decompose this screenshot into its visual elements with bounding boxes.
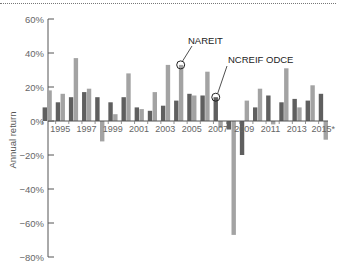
bar-ncreif-odce xyxy=(56,102,60,121)
bar-nareit xyxy=(113,114,117,121)
y-tick-label: 20% xyxy=(25,82,45,93)
bar-ncreif-odce xyxy=(306,101,310,121)
y-tick-label: 40% xyxy=(25,48,45,59)
bar-nareit xyxy=(232,121,236,235)
x-tick-label: 2007 xyxy=(208,124,228,134)
y-tick-label: −20% xyxy=(19,150,44,161)
bar-nareit xyxy=(297,107,301,121)
bar-ncreif-odce xyxy=(292,99,296,121)
bar-nareit xyxy=(87,89,91,121)
annotations: NAREIT NCREIF ODCE xyxy=(177,35,294,101)
y-tick-label: 60% xyxy=(25,14,45,25)
annotation-ncreif-odce: NCREIF ODCE xyxy=(228,54,293,65)
bar-nareit xyxy=(47,90,51,121)
x-tick-label: 1999 xyxy=(103,124,123,134)
x-tick-label: 2009 xyxy=(234,124,254,134)
x-tick-label: 2013 xyxy=(287,124,307,134)
x-tick-label: 2005 xyxy=(182,124,202,134)
x-axis: 1995199719992001200320052007200920112013… xyxy=(43,121,336,134)
bar-nareit xyxy=(166,65,170,121)
bar-nareit xyxy=(126,73,130,121)
bar-nareit xyxy=(310,85,314,121)
x-tick-label: 2001 xyxy=(129,124,149,134)
bar-ncreif-odce xyxy=(122,97,126,121)
bar-nareit xyxy=(179,65,183,121)
bar-ncreif-odce xyxy=(187,94,191,121)
bar-ncreif-odce xyxy=(69,97,73,121)
bar-ncreif-odce xyxy=(253,107,257,121)
bar-nareit xyxy=(61,94,65,121)
annotation-nareit: NAREIT xyxy=(188,35,223,46)
bars xyxy=(43,58,328,235)
x-tick-label: 2011 xyxy=(261,124,280,134)
x-tick-label: 2015* xyxy=(311,124,335,134)
bar-nareit xyxy=(205,72,209,121)
bar-ncreif-odce xyxy=(95,97,99,121)
bar-nareit xyxy=(139,109,143,121)
bar-ncreif-odce xyxy=(43,107,47,121)
x-tick-label: 1997 xyxy=(76,124,96,134)
bar-nareit xyxy=(258,89,262,121)
x-tick-label: 2003 xyxy=(155,124,175,134)
bar-nareit xyxy=(284,68,288,121)
bar-nareit xyxy=(74,58,78,121)
bar-ncreif-odce xyxy=(135,107,139,121)
y-tick-label: −80% xyxy=(19,252,44,263)
bar-ncreif-odce xyxy=(161,106,165,121)
y-axis-label: Annual return xyxy=(7,111,18,168)
bar-ncreif-odce xyxy=(82,92,86,121)
bar-nareit xyxy=(245,101,249,121)
bar-ncreif-odce xyxy=(108,102,112,121)
bar-nareit xyxy=(153,92,157,121)
y-tick-label: −40% xyxy=(19,184,44,195)
y-axis: 60%40%20%0%−20%−40%−60%−80% xyxy=(19,14,54,263)
bar-ncreif-odce xyxy=(319,94,323,121)
bar-ncreif-odce xyxy=(174,101,178,121)
bar-ncreif-odce xyxy=(266,96,270,122)
x-tick-label: 1995 xyxy=(50,124,70,134)
y-tick-label: −60% xyxy=(19,218,44,229)
bar-chart: 60%40%20%0%−20%−40%−60%−80% 199519971999… xyxy=(0,0,340,272)
bar-ncreif-odce xyxy=(279,102,283,121)
bar-nareit xyxy=(192,96,196,122)
bar-ncreif-odce xyxy=(200,96,204,122)
bar-ncreif-odce xyxy=(148,111,152,121)
